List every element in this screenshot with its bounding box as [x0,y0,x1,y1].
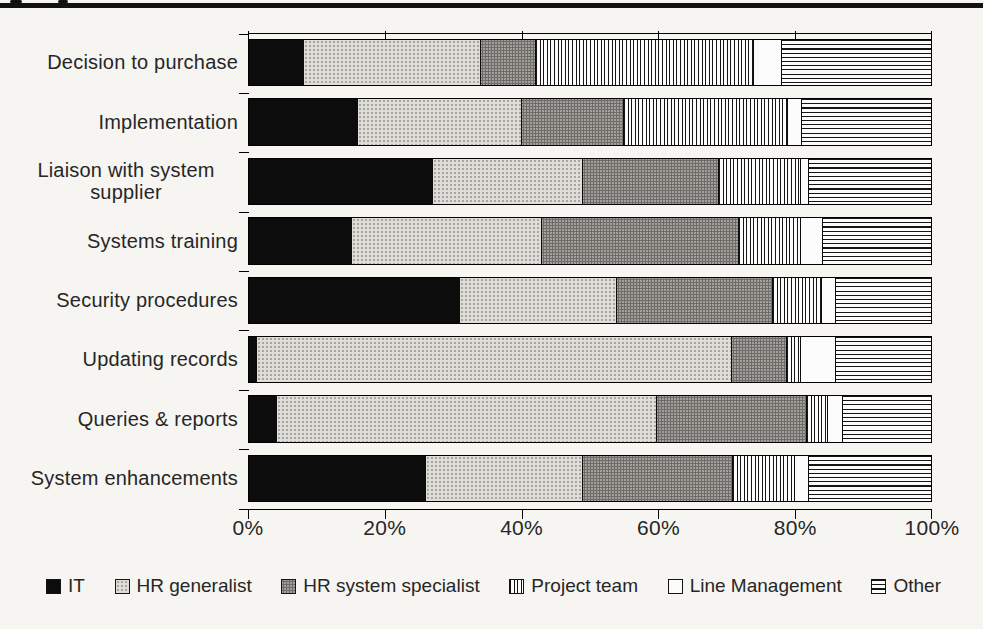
legend-item-project-team: Project team [509,575,638,597]
value-axis-tick-label: 0% [233,516,264,540]
legend-item-other: Other [871,575,941,597]
legend-swatch-icon [46,579,61,594]
legend-label: HR system specialist [303,575,479,597]
legend-item-hr-system-specialist: HR system specialist [281,575,479,597]
value-axis-tick-label: 20% [363,516,406,540]
legend-swatch-icon [509,579,524,594]
legend-swatch-icon [668,579,683,594]
value-axis-tick-label: 80% [774,516,817,540]
legend-label: Other [893,575,941,597]
legend-label: Line Management [690,575,842,597]
legend: ITHR generalistHR system specialistProje… [46,573,941,599]
legend-swatch-icon [281,579,296,594]
legend-label: Project team [531,575,638,597]
legend-swatch-icon [115,579,130,594]
legend-swatch-icon [871,579,886,594]
legend-item-hr-generalist: HR generalist [115,575,252,597]
legend-item-it: IT [46,575,85,597]
value-axis-tick-label: 60% [637,516,680,540]
value-axis-labels: 0%20%40%60%80%100% [0,0,983,629]
legend-label: IT [68,575,85,597]
legend-item-line-management: Line Management [668,575,842,597]
value-axis-tick-label: 40% [500,516,543,540]
value-axis-tick-label: 100% [905,516,960,540]
figure-page: Decision to purchaseImplementationLiaiso… [0,0,983,629]
legend-label: HR generalist [137,575,252,597]
